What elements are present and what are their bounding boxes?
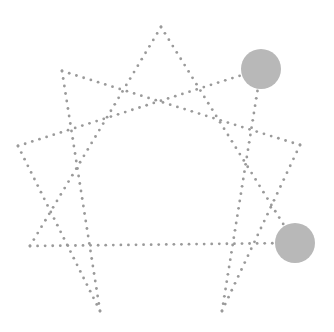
enneagram-diagram: Enneagram [0, 0, 334, 332]
highlight-point-3 [275, 223, 315, 263]
hexad-line-1-4 [221, 68, 263, 313]
highlight-point-1 [241, 49, 281, 89]
triangle-line-6-9 [29, 26, 163, 248]
triangle-line-3-6 [29, 242, 297, 248]
enneagram-canvas [0, 0, 334, 332]
hexad-line-8-5 [61, 70, 102, 313]
hexad-line-5-7 [17, 145, 102, 313]
hexad-line-7-1 [17, 68, 263, 148]
highlight-circles [241, 49, 315, 263]
